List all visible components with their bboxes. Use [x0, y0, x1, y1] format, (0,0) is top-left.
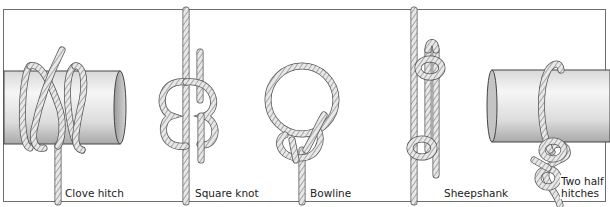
label-two-half-hitches-line1: Two half — [560, 175, 605, 187]
bowline-illustration — [268, 66, 336, 202]
label-two-half-hitches-line2: hitches — [560, 187, 600, 199]
label-clove-hitch: Clove hitch — [64, 187, 125, 199]
square-knot-illustration — [162, 10, 215, 202]
label-square-knot: Square knot — [194, 187, 260, 199]
knots-illustration — [0, 0, 610, 207]
label-sheepshank: Sheepshank — [443, 187, 509, 199]
clove-hitch-illustration — [4, 50, 126, 202]
label-bowline: Bowline — [309, 187, 352, 199]
post-icon — [487, 70, 610, 142]
sheepshank-illustration — [410, 10, 442, 202]
